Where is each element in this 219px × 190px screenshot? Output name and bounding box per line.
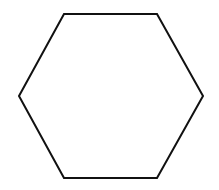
diagram-canvas xyxy=(0,0,219,190)
hexagon-shape xyxy=(19,14,203,178)
